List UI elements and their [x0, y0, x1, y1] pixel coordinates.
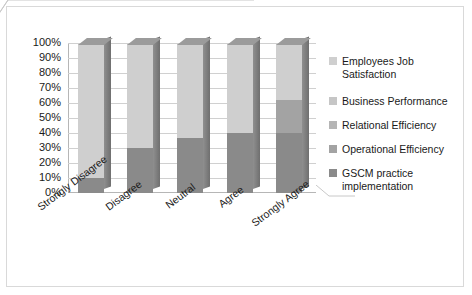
bar-column: [127, 43, 153, 193]
plot-area: [68, 43, 316, 193]
bar-segment-employees-job-satisfaction: [177, 43, 203, 138]
y-axis-tick-100: 100%: [15, 37, 61, 48]
bar-segment-employees-job-satisfaction: [127, 43, 153, 148]
legend-item-employees-job-satisfaction: Employees Job Satisfaction: [329, 55, 461, 81]
bar-side-face: [203, 36, 210, 189]
bar-side-face: [104, 36, 111, 189]
bar-neutral: [177, 43, 203, 193]
legend-item-operational-efficiency: Operational Efficiency: [329, 143, 461, 156]
legend-swatch: [329, 145, 337, 153]
legend-swatch: [329, 97, 337, 105]
bar-segment-employees-job-satisfaction: [276, 43, 302, 100]
y-axis-tick-40: 40%: [15, 127, 61, 138]
chart-legend: Employees Job SatisfactionBusiness Perfo…: [329, 55, 461, 207]
bar-disagree: [127, 43, 153, 193]
bar-side-face: [302, 36, 309, 189]
bar-agree: [227, 43, 253, 193]
y-axis-tick-60: 60%: [15, 97, 61, 108]
bar-column: [227, 43, 253, 193]
legend-label: Relational Efficiency: [342, 119, 436, 131]
legend-item-business-performance: Business Performance: [329, 95, 461, 108]
y-axis-tick-20: 20%: [15, 157, 61, 168]
bar-side-face: [153, 36, 160, 189]
legend-item-gscm-practice-implementation: GSCM practice implementation: [329, 167, 461, 193]
y-axis-tick-10: 10%: [15, 172, 61, 183]
legend-swatch: [329, 169, 337, 177]
legend-item-relational-efficiency: Relational Efficiency: [329, 119, 461, 132]
legend-label: Operational Efficiency: [342, 143, 444, 155]
legend-label: GSCM practice implementation: [342, 167, 413, 192]
bar-column: [177, 43, 203, 193]
bar-side-face: [253, 36, 260, 189]
legend-label: Employees Job Satisfaction: [342, 55, 414, 80]
bar-column: [276, 43, 302, 193]
chart-container: 100%90%80%70%60%50%40%30%20%10%0% Strong…: [6, 6, 464, 287]
y-axis-tick-70: 70%: [15, 82, 61, 93]
y-axis-tick-80: 80%: [15, 67, 61, 78]
y-axis-tick-50: 50%: [15, 112, 61, 123]
y-axis-tick-90: 90%: [15, 52, 61, 63]
y-axis-tick-30: 30%: [15, 142, 61, 153]
bar-segment-operational-efficiency: [276, 100, 302, 133]
legend-swatch: [329, 57, 337, 65]
legend-label: Business Performance: [342, 95, 448, 107]
legend-swatch: [329, 121, 337, 129]
bar-segment-employees-job-satisfaction: [227, 43, 253, 133]
bar-strongly-agree: [276, 43, 302, 193]
